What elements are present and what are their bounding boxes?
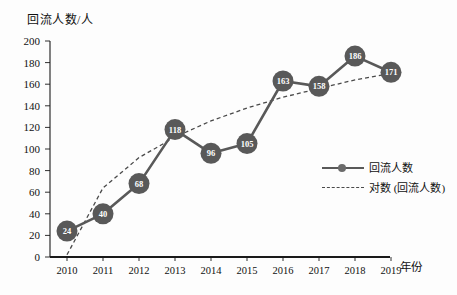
data-point-label: 96 bbox=[207, 148, 216, 158]
data-point-marker: 40 bbox=[93, 203, 114, 224]
legend: 回流人数 对数 (回流人数) bbox=[322, 158, 445, 198]
data-point-label: 118 bbox=[169, 125, 181, 135]
data-point-marker: 171 bbox=[381, 62, 402, 83]
legend-item-trendline: 对数 (回流人数) bbox=[322, 178, 445, 198]
data-point-label: 186 bbox=[349, 51, 362, 61]
data-point-label: 105 bbox=[241, 139, 254, 149]
legend-label-series: 回流人数 bbox=[369, 158, 413, 178]
data-point-label: 40 bbox=[99, 209, 108, 219]
data-point-marker: 163 bbox=[273, 70, 294, 91]
legend-solid-line-icon bbox=[322, 162, 364, 174]
data-point-label: 163 bbox=[277, 76, 290, 86]
data-point-marker: 96 bbox=[201, 143, 222, 164]
data-point-label: 68 bbox=[135, 179, 144, 189]
data-point-label: 158 bbox=[313, 81, 326, 91]
data-point-marker: 118 bbox=[165, 119, 186, 140]
plot-area: 24406811896105163158186171 bbox=[0, 0, 457, 295]
legend-label-trendline: 对数 (回流人数) bbox=[369, 178, 445, 198]
data-point-marker: 24 bbox=[57, 221, 78, 242]
data-point-marker: 105 bbox=[237, 133, 258, 154]
data-point-markers: 24406811896105163158186171 bbox=[57, 46, 402, 242]
data-point-marker: 186 bbox=[345, 46, 366, 67]
legend-dashed-line-icon bbox=[322, 182, 364, 194]
data-point-label: 171 bbox=[385, 67, 398, 77]
data-point-marker: 68 bbox=[129, 173, 150, 194]
legend-item-series: 回流人数 bbox=[322, 158, 445, 178]
data-point-marker: 158 bbox=[309, 76, 330, 97]
data-point-label: 24 bbox=[63, 226, 72, 236]
data-line-series bbox=[67, 56, 391, 231]
chart-container: 回流人数/人 年份 020406080100120140160180200 20… bbox=[0, 0, 457, 295]
